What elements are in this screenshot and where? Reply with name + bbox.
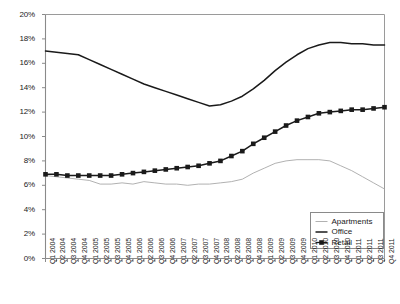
data-point-marker [142,170,147,175]
x-tick-label: Q2 2009 [278,237,285,263]
x-tick-label: Q3 2006 [158,237,165,263]
x-tick-label: Q2 2005 [103,237,110,263]
data-point-marker [295,118,300,123]
x-tick-label: Q4 2011 [388,238,395,264]
x-tick-label: Q2 2007 [191,237,198,263]
x-tick-label: Q4 2008 [256,237,263,263]
x-tick-label: Q1 2008 [223,237,230,263]
y-tick-label: 0% [5,254,35,263]
x-tick-label: Q3 2009 [289,237,296,263]
x-tick-label: Q1 2004 [49,237,56,263]
x-tick-label: Q3 2005 [114,237,121,263]
y-tick-label: 6% [5,180,35,189]
y-tick-label: 20% [5,10,35,19]
x-tick-label: Q1 2007 [180,237,187,263]
series-lines [43,43,387,189]
data-point-marker [371,106,376,111]
data-point-marker [328,110,333,115]
y-tick-label: 18% [5,34,35,43]
data-point-marker [185,165,190,170]
data-point-marker [98,173,103,178]
x-tick-label: Q2 2010 [322,237,329,263]
x-tick-label: Q1 2006 [136,237,143,263]
data-point-marker [196,163,201,168]
x-tick-label: Q4 2004 [81,237,88,263]
x-tick-label: Q1 2009 [267,237,274,263]
legend-item-office: Office [332,227,353,236]
series-line-retail [46,107,385,175]
data-point-marker [43,172,48,177]
series-line-apartments [46,160,385,189]
x-tick-label: Q4 2006 [169,237,176,263]
x-tick-label: Q2 2006 [147,237,154,263]
y-tick-label: 10% [5,132,35,141]
data-point-marker [338,109,343,114]
data-point-marker [240,149,245,154]
data-point-marker [76,173,81,178]
data-point-marker [317,111,322,116]
x-tick-label: Q4 2007 [213,237,220,263]
data-point-marker [65,173,70,178]
x-tick-label: Q3 2011 [377,238,384,264]
x-tick-label: Q3 2004 [70,237,77,263]
x-tick-label: Q1 2010 [311,237,318,263]
y-tick-label: 12% [5,107,35,116]
data-point-marker [382,105,387,110]
y-tick-label: 16% [5,58,35,67]
y-tick-label: 2% [5,229,35,238]
data-point-marker [251,142,256,147]
legend-item-apartments: Apartments [332,217,373,226]
data-point-marker [273,129,278,134]
y-tick-label: 8% [5,156,35,165]
data-point-marker [131,171,136,176]
x-tick-label: Q3 2007 [202,237,209,263]
data-point-marker [218,159,223,164]
x-tick-label: Q2 2008 [234,237,241,263]
data-point-marker [349,107,354,112]
x-tick-label: Q4 2009 [300,237,307,263]
x-tick-label: Q4 2005 [125,237,132,263]
data-point-marker [360,107,365,112]
data-point-marker [109,173,114,178]
data-point-marker [262,135,267,140]
x-tick-label: Q1 2005 [92,237,99,263]
data-point-marker [163,167,168,172]
data-point-marker [120,172,125,177]
data-point-marker [87,173,92,178]
data-point-marker [207,161,212,166]
x-tick-label: Q2 2004 [59,237,66,263]
line-chart: 0%2%4%6%8%10%12%14%16%18%20% Q1 2004Q2 2… [0,0,400,304]
data-point-marker [54,172,59,177]
y-tick-label: 4% [5,205,35,214]
data-point-marker [284,123,289,128]
legend-item-retail: Retail [332,238,352,247]
series-line-office [46,43,385,106]
y-tick-label: 14% [5,83,35,92]
x-tick-label: Q3 2008 [245,237,252,263]
data-point-marker [229,154,234,159]
x-tick-label: Q2 2011 [366,238,373,264]
x-tick-label: Q1 2011 [355,238,362,264]
data-point-marker [153,168,158,173]
data-point-marker [174,166,179,171]
data-point-marker [306,115,311,120]
